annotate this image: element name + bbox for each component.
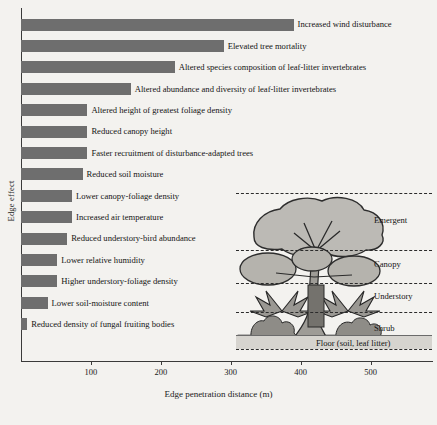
bar-row: Lower relative humidity [21,249,145,270]
bar-row: Reduced soil moisture [21,164,163,185]
bar [21,211,72,223]
stratum-label-emergent: Emergent [374,215,407,225]
x-axis-tick [371,361,372,365]
x-axis-tick-label: 500 [364,367,377,377]
x-axis-tick-label: 200 [154,367,167,377]
bar-label: Increased wind disturbance [298,20,392,29]
bar [21,190,72,202]
bar-label: Lower soil-moisture content [52,299,149,308]
bar-row: Reduced understory-bird abundance [21,228,196,249]
bar [21,254,57,266]
bar [21,126,87,138]
bar-label: Reduced soil moisture [87,170,164,179]
bar-row: Altered height of greatest foliage densi… [21,100,232,121]
bar-label: Elevated tree mortality [228,42,307,51]
bar [21,275,57,287]
bar [21,83,131,95]
stratum-divider-canopy-understory [236,283,432,284]
bar-row: Faster recruitment of disturbance-adapte… [21,142,253,163]
x-axis-tick-label: 300 [224,367,237,377]
bar [21,168,83,180]
x-axis-tick [301,361,302,365]
bar [21,297,48,309]
bar-label: Altered height of greatest foliage densi… [91,106,232,115]
bar [21,19,294,31]
bar [21,61,175,73]
stratum-label-canopy: Canopy [374,259,401,269]
stratum-divider-emergent-top [236,193,432,194]
stratum-label-understory: Understory [374,291,413,301]
stratum-divider-floor [236,349,432,350]
bar-row: Elevated tree mortality [21,35,306,56]
bar-row: Lower soil-moisture content [21,292,149,313]
stratum-divider-emergent-canopy [236,250,432,251]
bar-row: Reduced canopy height [21,121,172,142]
bar-label: Altered abundance and diversity of leaf-… [135,85,336,94]
y-axis-label: Edge effect [6,166,16,236]
bar-row: Lower canopy-foliage density [21,185,179,206]
bar [21,104,87,116]
bar [21,40,224,52]
stratum-label-shrub: Shrub [374,323,395,333]
forest-floor-label: Floor (soil, leaf litter) [316,338,390,348]
forest-strata-inset: Emergent Canopy Understory Shrub Floor (… [236,193,432,358]
bar-label: Reduced understory-bird abundance [71,234,196,243]
bar-label: Reduced density of fungal fruiting bodie… [31,320,174,329]
bar-row: Increased air temperature [21,207,163,228]
bar-label: Lower canopy-foliage density [76,192,179,201]
stratum-divider-understory-shrub [236,312,432,313]
bar-label: Lower relative humidity [61,256,145,265]
bar-label: Increased air temperature [76,213,163,222]
bar-label: Altered species composition of leaf-litt… [179,63,366,72]
x-axis-tick [161,361,162,365]
x-axis-label: Edge penetration distance (m) [0,389,437,399]
x-axis-tick-label: 400 [294,367,307,377]
bar-row: Altered species composition of leaf-litt… [21,57,366,78]
bar-row: Reduced density of fungal fruiting bodie… [21,314,174,335]
x-axis-tick-label: 100 [85,367,98,377]
bar-label: Reduced canopy height [91,127,172,136]
bar-row: Increased wind disturbance [21,14,392,35]
figure-canvas: Edge effect Increased wind disturbanceEl… [0,0,437,425]
bar-row: Altered abundance and diversity of leaf-… [21,78,336,99]
bar [21,233,67,245]
bar [21,318,27,330]
bar-row: Higher understory-foliage density [21,271,178,292]
x-axis-tick [231,361,232,365]
x-axis-tick [91,361,92,365]
bar [21,147,87,159]
bar-label: Higher understory-foliage density [61,277,177,286]
bar-label: Faster recruitment of disturbance-adapte… [91,149,253,158]
